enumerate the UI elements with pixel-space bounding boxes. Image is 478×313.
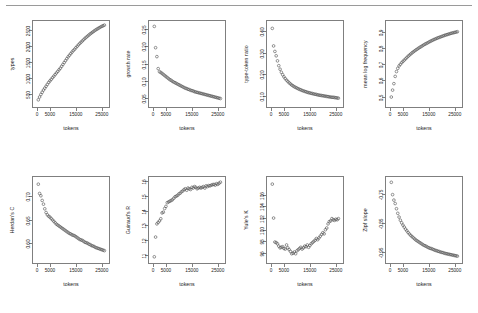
x-tick-mark [218, 108, 219, 111]
x-tick-mark [403, 108, 404, 111]
y-tick-mark [382, 223, 385, 224]
x-axis-label: tokens [266, 125, 344, 131]
x-tick-mark [310, 108, 311, 111]
x-tick-mark [37, 108, 38, 111]
x-axis-label: tokens [148, 125, 226, 131]
x-tick-mark [455, 264, 456, 267]
y-tick-mark [382, 252, 385, 253]
y-tick-label: 2500 [26, 26, 31, 36]
y-tick-label: 102 [260, 215, 265, 223]
y-tick-mark [145, 64, 148, 65]
y-tick-label: 1000 [26, 74, 31, 84]
x-tick-label: 15000 [62, 268, 90, 273]
data-points [32, 176, 110, 264]
chart-panel: 0.50.60.70.80.9050001500025000mean log f… [0, 0, 478, 313]
y-axis-label: mean log frequency [362, 40, 368, 87]
y-tick-mark [382, 97, 385, 98]
data-points [148, 20, 226, 108]
y-tick-label: 96 [260, 252, 265, 257]
y-tick-label: 0.10 [142, 77, 147, 86]
y-tick-label: 0.15 [142, 60, 147, 69]
x-tick-label: 0 [257, 268, 285, 273]
x-tick-mark [50, 264, 51, 267]
x-tick-label: 25000 [88, 112, 116, 117]
x-tick-label: 5000 [270, 112, 298, 117]
x-axis-label: tokens [266, 281, 344, 287]
y-tick-label: 0.70 [26, 193, 31, 202]
y-tick-mark [29, 30, 32, 31]
x-tick-label: 0 [139, 268, 167, 273]
data-points [266, 20, 344, 108]
y-tick-label: 500 [26, 91, 31, 99]
x-tick-mark [284, 264, 285, 267]
chart-panel: 111213141516050001500025000Guiraud's Rto… [0, 0, 478, 313]
x-tick-mark [153, 108, 154, 111]
y-tick-label: 0.5 [379, 94, 384, 101]
x-tick-mark [192, 264, 193, 267]
x-tick-mark [390, 108, 391, 111]
y-tick-label: 0.7 [379, 62, 384, 69]
plot-frame [266, 20, 344, 108]
x-tick-label: 5000 [270, 268, 298, 273]
x-tick-mark [50, 108, 51, 111]
y-tick-label: 0.25 [142, 26, 147, 35]
chart-panel: 0.600.650.70050001500025000Herdan's Ctok… [0, 0, 478, 313]
x-tick-mark [102, 264, 103, 267]
y-tick-label: -0.75 [379, 190, 384, 201]
y-tick-mark [145, 81, 148, 82]
x-tick-label: 25000 [88, 268, 116, 273]
y-tick-mark [29, 62, 32, 63]
x-tick-mark [429, 108, 430, 111]
x-tick-label: 0 [23, 268, 51, 273]
chart-panel: 0.050.100.150.200.25050001500025000growt… [0, 0, 478, 313]
x-tick-mark [153, 264, 154, 267]
y-tick-label: 0.9 [379, 30, 384, 37]
x-tick-label: 25000 [322, 112, 350, 117]
data-points [266, 176, 344, 264]
y-tick-mark [145, 255, 148, 256]
x-tick-mark [455, 108, 456, 111]
y-tick-mark [145, 211, 148, 212]
y-tick-mark [145, 46, 148, 47]
x-axis-label: tokens [32, 281, 110, 287]
y-tick-label: 1500 [26, 58, 31, 68]
x-tick-label: 15000 [415, 112, 443, 117]
x-axis-label: tokens [385, 125, 463, 131]
chart-panel: 5001000150020002500050001500025000typest… [0, 0, 478, 313]
y-tick-mark [263, 195, 266, 196]
y-tick-mark [382, 194, 385, 195]
y-tick-mark [382, 64, 385, 65]
x-tick-mark [192, 108, 193, 111]
y-tick-mark [29, 220, 32, 221]
y-tick-mark [263, 241, 266, 242]
x-tick-mark [429, 264, 430, 267]
data-points [32, 20, 110, 108]
x-tick-label: 0 [257, 112, 285, 117]
y-tick-mark [29, 196, 32, 197]
y-axis-label: types [9, 58, 15, 71]
x-tick-mark [102, 108, 103, 111]
y-tick-label: 2000 [26, 42, 31, 52]
y-tick-label: 0.10 [260, 93, 265, 102]
x-tick-label: 15000 [178, 268, 206, 273]
y-tick-mark [382, 32, 385, 33]
x-tick-mark [403, 264, 404, 267]
chart-panel: -0.95-0.85-0.75050001500025000Zipf slope… [0, 0, 478, 313]
y-tick-label: 0.6 [379, 78, 384, 85]
y-tick-mark [263, 96, 266, 97]
x-tick-label: 0 [376, 268, 404, 273]
x-tick-mark [271, 108, 272, 111]
x-tick-label: 15000 [296, 268, 324, 273]
x-tick-label: 0 [23, 112, 51, 117]
y-tick-label: 15 [142, 194, 147, 199]
x-tick-label: 15000 [415, 268, 443, 273]
figure-canvas: 5001000150020002500050001500025000typest… [0, 0, 478, 313]
plot-frame [385, 20, 463, 108]
data-points [385, 20, 463, 108]
x-tick-mark [166, 108, 167, 111]
plot-frame [266, 176, 344, 264]
y-tick-mark [263, 230, 266, 231]
x-tick-label: 5000 [389, 112, 417, 117]
x-tick-label: 15000 [178, 112, 206, 117]
y-axis-label: type-token ratio [243, 45, 249, 82]
